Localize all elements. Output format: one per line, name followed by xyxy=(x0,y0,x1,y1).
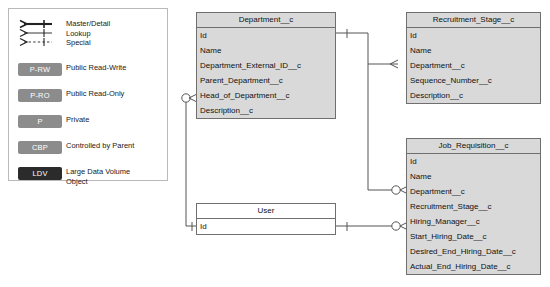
legend-row-large-data-volume: LDV Large Data Volume Object xyxy=(18,167,130,186)
field-recruitment-stage-description: Description__c xyxy=(407,88,540,103)
legend-row-relationships: Master/Detail Lookup Special xyxy=(18,19,110,53)
legend-label-master-detail: Master/Detail xyxy=(66,19,110,29)
field-department-head: Head_of_Department__c xyxy=(197,88,335,103)
field-job-requisition-start-hiring-date: Start_Hiring_Date__c xyxy=(407,229,540,244)
field-job-requisition-id: Id xyxy=(407,154,540,169)
entity-recruitment-stage-title: Recruitment_Stage__c xyxy=(407,13,540,28)
entity-user-title: User xyxy=(197,204,335,219)
legend-row-public-read-write: P-RW Public Read-Write xyxy=(18,63,126,76)
field-job-requisition-department: Department__c xyxy=(407,184,540,199)
field-recruitment-stage-id: Id xyxy=(407,28,540,43)
field-job-requisition-hiring-manager: Hiring_Manager__c xyxy=(407,214,540,229)
relationship-lines-icon xyxy=(18,19,66,49)
badge-cbp: CBP xyxy=(18,141,62,154)
er-diagram-canvas: Master/Detail Lookup Special P-RW Public… xyxy=(0,0,550,287)
badge-p-wrap: P xyxy=(18,115,66,128)
badge-ldv: LDV xyxy=(18,167,62,180)
legend-label-public-read-write: Public Read-Write xyxy=(66,63,126,73)
badge-p: P xyxy=(18,115,62,128)
field-department-parent: Parent_Department__c xyxy=(197,73,335,88)
field-job-requisition-name: Name xyxy=(407,169,540,184)
entity-recruitment-stage-fields: Id Name Department__c Sequence_Number__c… xyxy=(407,28,540,103)
legend-row-controlled-by-parent: CBP Controlled by Parent xyxy=(18,141,134,154)
legend-row-public-read-only: P-RO Public Read-Only xyxy=(18,89,124,102)
entity-user-fields: Id xyxy=(197,219,335,234)
wire-department-to-recruitment-stage xyxy=(336,33,398,64)
legend-label-private: Private xyxy=(66,115,89,125)
legend-label-special: Special xyxy=(66,38,110,48)
badge-cbp-wrap: CBP xyxy=(18,141,66,154)
entity-department[interactable]: Department__c Id Name Department_Externa… xyxy=(196,12,336,119)
entity-department-fields: Id Name Department_External_ID__c Parent… xyxy=(197,28,335,118)
badge-p-rw: P-RW xyxy=(18,63,62,76)
field-job-requisition-recruitment-stage: Recruitment_Stage__c xyxy=(407,199,540,214)
legend-label-lookup: Lookup xyxy=(66,29,110,39)
field-recruitment-stage-name: Name xyxy=(407,43,540,58)
entity-recruitment-stage[interactable]: Recruitment_Stage__c Id Name Department_… xyxy=(406,12,541,104)
badge-ldv-wrap: LDV xyxy=(18,167,66,180)
field-department-description: Description__c xyxy=(197,103,335,118)
field-job-requisition-desired-end-hiring-date: Desired_End_Hiring_Date__c xyxy=(407,244,540,259)
entity-job-requisition-title: Job_Requisition__c xyxy=(407,139,540,154)
entity-job-requisition[interactable]: Job_Requisition__c Id Name Department__c… xyxy=(406,138,541,275)
badge-p-ro: P-RO xyxy=(18,89,62,102)
field-job-requisition-actual-end-hiring-date: Actual_End_Hiring_Date__c xyxy=(407,259,540,274)
relationship-labels: Master/Detail Lookup Special xyxy=(66,19,110,48)
field-recruitment-stage-department: Department__c xyxy=(407,58,540,73)
field-user-id: Id xyxy=(197,219,335,234)
field-department-name: Name xyxy=(197,43,335,58)
legend-label-controlled-by-parent: Controlled by Parent xyxy=(66,141,134,151)
legend-label-public-read-only: Public Read-Only xyxy=(66,89,124,99)
field-department-id: Id xyxy=(197,28,335,43)
entity-department-title: Department__c xyxy=(197,13,335,28)
field-department-external-id: Department_External_ID__c xyxy=(197,58,335,73)
entity-job-requisition-fields: Id Name Department__c Recruitment_Stage_… xyxy=(407,154,540,274)
legend-label-large-data-volume: Large Data Volume Object xyxy=(66,167,130,186)
legend-row-private: P Private xyxy=(18,115,89,128)
legend-panel: Master/Detail Lookup Special P-RW Public… xyxy=(8,8,168,181)
field-recruitment-stage-sequence-number: Sequence_Number__c xyxy=(407,73,540,88)
entity-user[interactable]: User Id xyxy=(196,203,336,235)
badge-p-ro-wrap: P-RO xyxy=(18,89,66,102)
relationship-symbols-group xyxy=(18,19,66,53)
wire-department-to-job-requisition xyxy=(368,64,392,190)
badge-p-rw-wrap: P-RW xyxy=(18,63,66,76)
